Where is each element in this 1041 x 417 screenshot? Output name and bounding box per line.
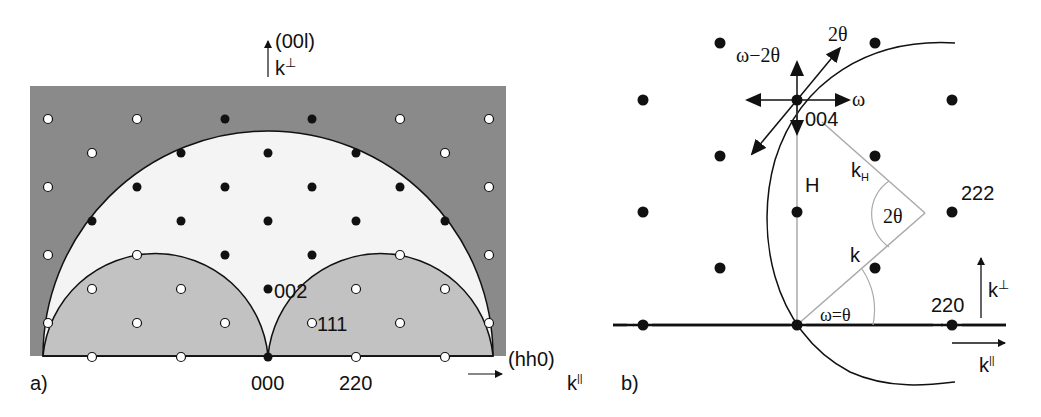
k-par-label-b: k|| <box>979 354 995 376</box>
label-222: 222 <box>961 182 994 204</box>
omega-scan-label: ω <box>852 88 865 110</box>
axis-00l-label: (00l) <box>275 30 315 52</box>
2theta-angle-label: 2θ <box>883 205 903 227</box>
2theta-arrow-down <box>752 100 797 154</box>
2theta-scan-label: 2θ <box>828 23 848 45</box>
omega-angle-arc <box>862 269 874 325</box>
k-label: k <box>850 244 861 266</box>
k-perp-label: k⊥ <box>275 55 296 79</box>
omega-2theta-label: ω−2θ <box>736 44 780 66</box>
panel-a-label: a) <box>30 372 48 394</box>
axis-hh0-label: (hh0) <box>508 348 555 370</box>
kH-vector <box>822 122 925 213</box>
panel-b-label: b) <box>621 372 639 394</box>
label-002: 002 <box>274 280 307 302</box>
k-vector <box>797 213 925 325</box>
label-220-b: 220 <box>931 294 964 316</box>
label-004: 004 <box>805 108 838 130</box>
omega-theta-label: ω=θ <box>820 305 851 325</box>
k-par-label: k|| <box>567 372 583 394</box>
panel-b: b) <box>613 23 1009 394</box>
label-000: 000 <box>251 372 284 394</box>
H-label: H <box>805 174 819 196</box>
reciprocal-space-diagram: 002 111 000 220 a) (00l) k⊥ (hh0) k|| b) <box>0 0 1041 417</box>
kH-label: kH <box>851 159 869 183</box>
2theta-arrow-up <box>797 48 840 100</box>
panel-a: 002 111 000 220 a) (00l) k⊥ (hh0) k|| <box>30 30 583 394</box>
label-111: 111 <box>317 313 347 335</box>
k-perp-label-b: k⊥ <box>988 277 1009 301</box>
label-220: 220 <box>339 372 372 394</box>
